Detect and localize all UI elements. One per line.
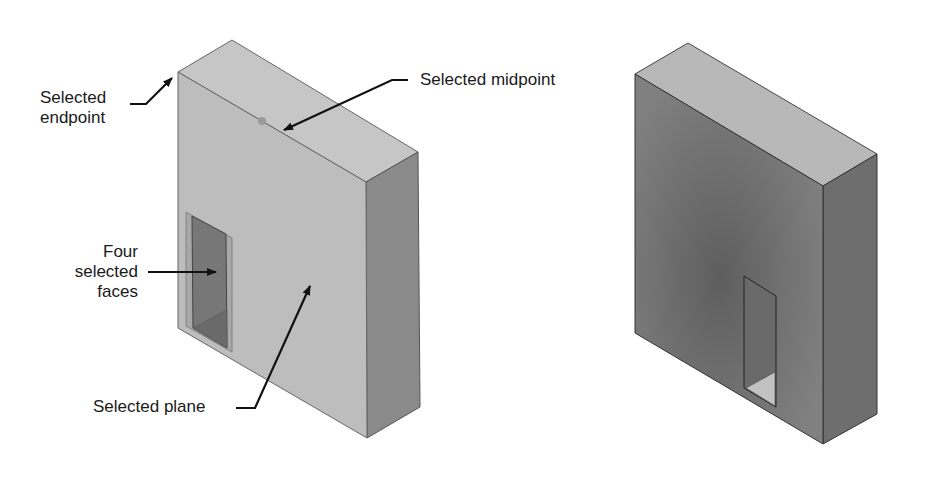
callout-selected-plane: Selected plane xyxy=(93,397,205,417)
callout-selected-midpoint: Selected midpoint xyxy=(420,70,555,90)
endpoint-label-line2: endpoint xyxy=(40,108,106,128)
left-block-side-face xyxy=(366,152,420,438)
diagram-stage: Selected endpoint Selected midpoint Four… xyxy=(0,0,929,478)
endpoint-arrow xyxy=(130,78,172,104)
callout-selected-endpoint: Selected endpoint xyxy=(40,88,106,128)
right-block-side-face xyxy=(823,154,877,444)
endpoint-label-line1: Selected xyxy=(40,88,106,108)
faces-label-line1: Four xyxy=(62,242,138,262)
right-block xyxy=(635,43,877,444)
plane-label: Selected plane xyxy=(93,397,205,416)
midpoint-label: Selected midpoint xyxy=(420,70,555,89)
callout-four-selected-faces: Four selected faces xyxy=(62,242,138,302)
selected-midpoint-marker xyxy=(258,117,266,125)
left-block xyxy=(178,40,420,438)
faces-label-line2: selected xyxy=(62,262,138,282)
faces-label-line3: faces xyxy=(62,282,138,302)
